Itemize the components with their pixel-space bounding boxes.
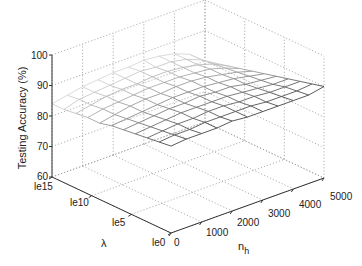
mesh-line	[232, 117, 247, 121]
mesh-line	[212, 102, 224, 106]
mesh-line	[140, 67, 155, 71]
mesh-line	[210, 68, 225, 69]
mesh-line	[171, 62, 183, 68]
mesh-line	[83, 80, 98, 87]
grid-line	[144, 144, 263, 200]
nh-tick-4000: 4000	[299, 199, 322, 210]
mesh-line	[258, 84, 273, 88]
lambda-tick-1e5: le5	[112, 217, 126, 228]
mesh-line	[219, 83, 231, 87]
mesh-line	[103, 102, 118, 109]
mesh-line	[166, 120, 178, 124]
mesh-line	[293, 95, 308, 101]
mesh-line	[180, 77, 192, 81]
mesh-line	[185, 96, 200, 103]
grid-line	[205, 0, 324, 56]
mesh-line	[174, 54, 189, 55]
mesh-line	[261, 76, 276, 80]
mesh-line	[149, 82, 164, 88]
mesh-line	[197, 107, 209, 111]
mesh-line	[129, 67, 141, 71]
mesh-line	[122, 89, 134, 95]
mesh-line	[95, 92, 107, 96]
mesh-line	[144, 60, 156, 67]
mesh-line	[273, 84, 285, 87]
mesh-line	[220, 117, 232, 121]
mesh-line	[100, 123, 112, 126]
mesh-line	[188, 87, 203, 93]
mesh-line	[79, 92, 94, 99]
grid-line	[52, 31, 205, 86]
mesh-line	[176, 81, 191, 87]
lambda-axis-label: λ	[101, 237, 107, 249]
mesh-line	[210, 69, 222, 75]
nh-tick-2000: 2000	[237, 217, 260, 228]
mesh-line	[288, 79, 300, 82]
nh-tick-1000: 1000	[206, 227, 229, 238]
mesh-line	[208, 106, 223, 112]
mesh-line	[205, 117, 220, 123]
grid-line	[52, 0, 205, 55]
nh-tick-5000: 5000	[330, 191, 353, 202]
mesh-line	[163, 131, 175, 135]
mesh-line	[312, 84, 324, 87]
nh-tick-0: 0	[174, 237, 180, 248]
mesh-line	[113, 73, 125, 79]
mesh-line	[139, 116, 154, 123]
mesh-line	[266, 96, 281, 102]
mesh-line	[183, 65, 198, 67]
mesh-line	[176, 87, 188, 93]
mesh-line	[208, 111, 220, 117]
grid-line	[205, 122, 324, 178]
mesh-line	[95, 85, 110, 92]
mesh-line	[254, 92, 269, 96]
grid-line	[83, 166, 202, 222]
mesh-line	[161, 94, 173, 98]
mesh-line	[202, 128, 217, 134]
mesh-line	[193, 118, 205, 122]
grid-line	[131, 159, 284, 214]
mesh-line	[285, 81, 300, 87]
mesh-line	[122, 84, 137, 90]
mesh-line	[123, 123, 138, 130]
mesh-line	[112, 119, 127, 126]
mesh-line	[88, 118, 100, 124]
mesh-line	[76, 113, 88, 117]
mesh-line	[88, 109, 103, 118]
mesh-line	[168, 67, 183, 71]
lambda-tick-labels: le15 le10 le5 le0	[34, 181, 166, 248]
mesh-line	[242, 92, 254, 96]
mesh-line	[163, 124, 178, 131]
mesh-line	[154, 109, 169, 116]
mesh-line	[154, 116, 166, 120]
mesh-line	[181, 113, 193, 119]
mesh-line	[91, 105, 103, 109]
mesh-line	[241, 69, 253, 72]
z-tick-100: 100	[31, 50, 48, 61]
lambda-tick-1e10: le10	[70, 197, 89, 208]
mesh-line	[178, 118, 193, 124]
mesh-line	[83, 87, 95, 93]
mesh-line	[144, 56, 159, 60]
mesh-line	[297, 84, 312, 91]
mesh-line	[205, 122, 217, 128]
mesh-line	[266, 102, 278, 106]
mesh-line	[246, 84, 258, 88]
z-axis-label: Testing Accuracy (%)	[16, 67, 28, 170]
mesh-line	[200, 92, 215, 96]
grid-line	[113, 155, 232, 211]
mesh-line	[198, 65, 210, 69]
z-tick-70: 70	[37, 141, 49, 152]
mesh-line	[67, 95, 79, 99]
mesh-line	[227, 96, 239, 102]
mesh-line	[265, 74, 277, 77]
mesh-line	[156, 62, 171, 68]
nh-axis-label-sub: h	[244, 246, 249, 256]
mesh-line	[166, 113, 181, 120]
grid-line	[52, 61, 205, 116]
mesh-line	[113, 67, 128, 73]
mesh-line	[161, 87, 176, 94]
mesh-line	[127, 119, 139, 123]
mesh-line	[190, 122, 205, 129]
mesh-line	[118, 95, 133, 102]
